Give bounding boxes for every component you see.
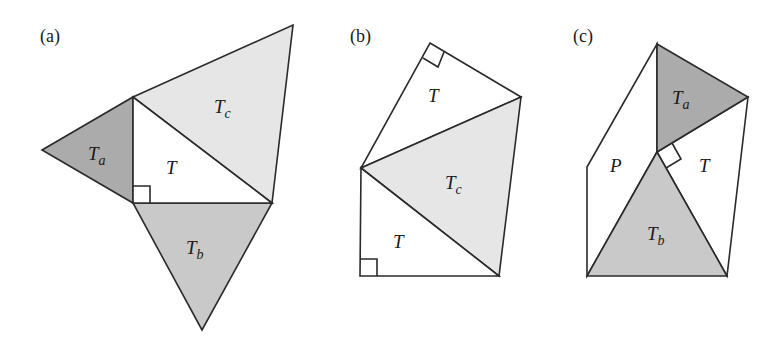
triangle-Tb (133, 203, 272, 330)
panel-b-label: (b) (350, 26, 371, 47)
label-T-top: T (428, 85, 440, 106)
figure: (a) T Ta Tb Tc (b) (0, 0, 778, 341)
label-P: P (609, 155, 622, 176)
panel-c-label: (c) (573, 26, 593, 47)
panel-a: (a) T Ta Tb Tc (40, 25, 293, 330)
panel-a-label: (a) (40, 26, 60, 47)
label-T: T (166, 157, 178, 178)
diagram-canvas: (a) T Ta Tb Tc (b) (0, 0, 778, 341)
label-T: T (699, 155, 711, 176)
label-T-bottom: T (393, 231, 405, 252)
panel-c: (c) Ta P T Tb (573, 26, 748, 276)
panel-b: (b) T Tc T (350, 26, 521, 276)
